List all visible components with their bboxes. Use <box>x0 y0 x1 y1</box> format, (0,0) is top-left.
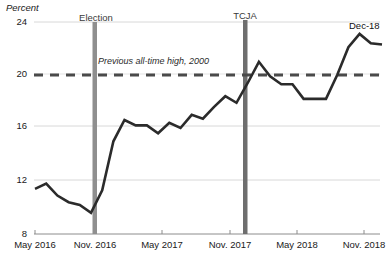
x-tick-label-nov-2016: Nov. 2016 <box>61 240 129 250</box>
y-tick-label-8: 8 <box>5 229 27 239</box>
gridlines <box>34 22 380 180</box>
x-axis-ticks <box>35 230 364 234</box>
x-tick-label-may-2016: May 2016 <box>1 240 69 250</box>
x-tick-label-nov-2017: Nov. 2017 <box>196 240 264 250</box>
event-label-tcja: TCJA <box>218 10 272 21</box>
event-bar-tcja <box>243 20 248 234</box>
y-axis-unit-label: Percent <box>6 2 39 13</box>
y-tick-label-20: 20 <box>5 69 27 79</box>
x-tick-label-nov-2018: Nov. 2018 <box>330 240 386 250</box>
series-end-label-dec-18: Dec-18 <box>349 20 380 31</box>
chart-container: Percent 24 20 16 12 8 May 2016 Nov. 2016… <box>0 0 386 260</box>
event-label-election: Election <box>67 12 125 23</box>
x-tick-label-may-2017: May 2017 <box>128 240 196 250</box>
event-marker-bars <box>93 20 248 234</box>
chart-plot-area <box>0 0 386 260</box>
y-tick-label-24: 24 <box>5 17 27 27</box>
y-tick-label-16: 16 <box>5 121 27 131</box>
reference-line-annotation: Previous all-time high, 2000 <box>98 56 209 66</box>
y-tick-label-12: 12 <box>5 175 27 185</box>
x-tick-label-may-2018: May 2018 <box>263 240 331 250</box>
